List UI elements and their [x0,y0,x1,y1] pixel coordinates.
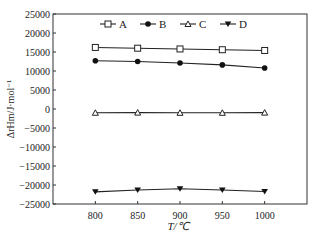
y-tick-label: 10000 [25,66,50,77]
filled-circle-marker-icon [93,58,99,64]
series-a [92,44,267,53]
open-square-marker-icon [105,21,111,27]
y-tick-label: 20000 [25,28,50,39]
y-tick-label: −10000 [19,142,50,153]
x-tick-label: 950 [215,210,230,221]
filled-circle-marker-icon [177,60,183,66]
y-axis-ticks: 2500020000150001000050000−5000−10000−150… [19,9,56,210]
y-tick-label: 15000 [25,47,50,58]
open-square-marker-icon [177,46,183,52]
open-square-marker-icon [262,47,268,53]
legend: ABCD [100,18,247,30]
legend-label: A [119,18,127,30]
y-tick-label: −25000 [19,199,50,210]
y-axis-label-text: ΔrHm/J·mol⁻¹ [5,80,16,138]
filled-circle-marker-icon [135,59,141,65]
x-tick-label: 800 [88,210,103,221]
line-chart: ΔrHm/J·mol⁻¹ 2500020000150001000050000−5… [0,0,317,235]
open-square-marker-icon [219,47,225,53]
filled-circle-marker-icon [262,65,268,71]
y-tick-label: 0 [45,104,50,115]
y-tick-label: −15000 [19,161,50,172]
y-axis-label: ΔrHm/J·mol⁻¹ [5,80,16,138]
open-square-marker-icon [92,44,98,50]
filled-circle-marker-icon [220,62,226,68]
series-b [93,58,268,71]
x-axis-label: T/℃ [167,220,190,232]
y-tick-label: 25000 [25,9,50,20]
legend-item-a: A [100,18,127,30]
filled-circle-marker-icon [145,21,151,27]
x-tick-label: 1000 [255,210,275,221]
open-square-marker-icon [135,45,141,51]
y-tick-label: 5000 [30,85,50,96]
y-tick-label: −5000 [24,123,50,134]
data-series [92,44,268,194]
x-tick-label: 850 [130,210,145,221]
legend-item-b: B [140,18,166,30]
y-tick-label: −20000 [19,180,50,191]
legend-item-d: D [220,18,247,30]
legend-label: B [159,18,166,30]
series-d [92,186,268,195]
legend-label: D [239,18,247,30]
legend-item-c: C [180,18,206,30]
legend-label: C [199,18,206,30]
series-c [92,110,267,116]
